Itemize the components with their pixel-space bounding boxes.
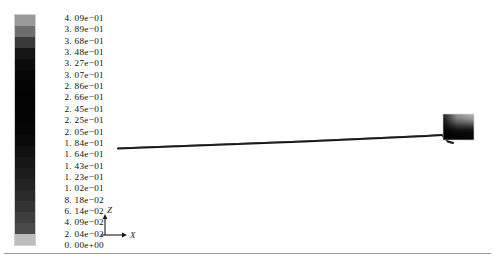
colorbar-tick-label: 3. 89e−01 [40,25,104,34]
colorbar-tick-label: 0. 00e+00 [40,241,104,250]
colorbar-tick-label: 6. 14e−02 [40,207,104,216]
colorbar-tick-label: 2. 04e−02 [40,230,104,239]
colorbar-tick-label: 3. 07e−01 [40,71,104,80]
colorbar-band-7 [15,92,35,103]
colorbar-tick-label: 2. 86e−01 [40,82,104,91]
colorbar-band-13 [15,157,35,168]
contour-plot-screenshot: 4. 09e−013. 89e−013. 68e−013. 48e−013. 2… [0,0,495,264]
colorbar-tick-label: 2. 45e−01 [40,105,104,114]
contour-colorbar[interactable] [14,14,36,246]
colorbar-tick-labels: 4. 09e−013. 89e−013. 68e−013. 48e−013. 2… [40,8,104,252]
beam-geometry [118,135,453,149]
colorbar-group [14,14,36,246]
colorbar-band-18 [15,212,35,223]
end-block[interactable] [443,114,474,140]
colorbar-tick-label: 3. 48e−01 [40,48,104,57]
colorbar-band-5 [15,70,35,81]
colorbar-band-10 [15,124,35,135]
colorbar-band-14 [15,168,35,179]
colorbar-band-9 [15,113,35,124]
colorbar-tick-label: 1. 84e−01 [40,139,104,148]
colorbar-band-11 [15,135,35,146]
colorbar-tick-label: 8. 18e−02 [40,196,104,205]
colorbar-tick-label: 1. 02e−01 [40,184,104,193]
colorbar-band-16 [15,190,35,201]
bottom-divider [4,253,491,254]
colorbar-tick-label: 4. 09e−02 [40,218,104,227]
colorbar-tick-label: 1. 64e−01 [40,150,104,159]
colorbar-band-1 [15,26,35,37]
colorbar-tick-label: 2. 25e−01 [40,116,104,125]
colorbar-tick-label: 1. 23e−01 [40,173,104,182]
colorbar-tick-label: 3. 27e−01 [40,59,104,68]
colorbar-band-20 [15,234,35,245]
colorbar-band-17 [15,201,35,212]
plot-region[interactable] [104,10,492,248]
colorbar-band-12 [15,146,35,157]
colorbar-band-15 [15,179,35,190]
colorbar-tick-label: 3. 68e−01 [40,37,104,46]
colorbar-band-0 [15,15,35,26]
colorbar-band-6 [15,81,35,92]
colorbar-tick-label: 4. 09e−01 [40,14,104,23]
colorbar-band-3 [15,48,35,59]
colorbar-band-4 [15,59,35,70]
colorbar-band-2 [15,37,35,48]
colorbar-band-8 [15,103,35,114]
colorbar-band-19 [15,223,35,234]
colorbar-tick-label: 2. 66e−01 [40,93,104,102]
colorbar-tick-label: 2. 05e−01 [40,128,104,137]
colorbar-tick-label: 1. 43e−01 [40,162,104,171]
